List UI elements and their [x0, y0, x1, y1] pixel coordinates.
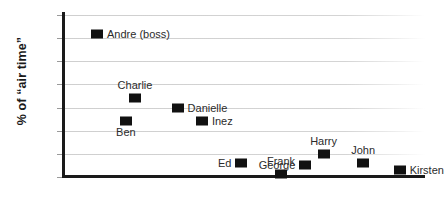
data-point-marker[interactable] — [172, 103, 184, 112]
data-point-label: John — [351, 145, 375, 156]
data-point-marker[interactable] — [318, 149, 330, 158]
data-point-label: Ed — [218, 158, 231, 169]
data-point-label: Danielle — [188, 102, 228, 113]
gridline — [62, 108, 425, 109]
data-point-label: Frank — [267, 156, 295, 167]
data-point-label: Ben — [116, 127, 136, 138]
data-point-marker[interactable] — [299, 161, 311, 170]
data-point-marker[interactable] — [357, 159, 369, 168]
data-point-label: Harry — [310, 136, 337, 147]
data-point-marker[interactable] — [235, 159, 247, 168]
data-point-marker[interactable] — [91, 29, 103, 38]
data-point-label: Andre (boss) — [107, 28, 170, 39]
data-point-label: Charlie — [118, 80, 153, 91]
y-axis-line — [62, 12, 65, 178]
gridline — [62, 61, 425, 62]
gridline — [62, 84, 425, 85]
plot-area: Andre (boss)CharlieDanielleBenInezHarryE… — [62, 15, 427, 177]
data-point-marker[interactable] — [394, 166, 406, 175]
data-point-marker[interactable] — [275, 170, 287, 179]
data-point-label: Inez — [212, 116, 233, 127]
data-point-marker[interactable] — [196, 117, 208, 126]
data-point-label: Kirsten — [410, 165, 444, 176]
air-time-scatter-chart: % of “air time” 05101520253035 Andre (bo… — [0, 0, 446, 199]
data-point-marker[interactable] — [120, 117, 132, 126]
gridline — [62, 15, 425, 16]
y-axis-title: % of “air time” — [15, 11, 29, 151]
data-point-marker[interactable] — [129, 94, 141, 103]
x-axis-line — [62, 175, 425, 178]
